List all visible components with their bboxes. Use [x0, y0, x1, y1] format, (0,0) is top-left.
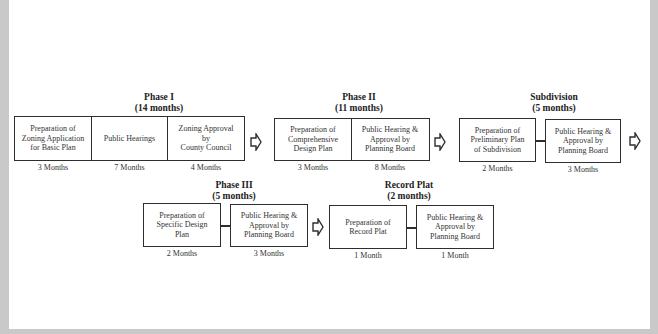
record-plat-step1-duration: 1 Month	[329, 251, 407, 261]
phase1-duration: (14 months)	[104, 103, 214, 114]
phase3-step1-box: Preparation of Specific Design Plan	[143, 203, 221, 247]
phase1-step3-duration: 4 Months	[167, 163, 245, 173]
hollow-right-arrow-icon	[434, 133, 446, 151]
subdivision-step1-box: Preparation of Preliminary Plan of Subdi…	[459, 118, 536, 162]
record-plat-step1-label: Preparation of Record Plat	[345, 218, 391, 237]
subdivision-step1-duration: 2 Months	[459, 164, 536, 174]
phase2-step1-box: Preparation of Comprehensive Design Plan	[274, 118, 352, 161]
subdivision-step2-box: Public Hearing & Approval by Planning Bo…	[545, 119, 621, 163]
record-plat-step1-box: Preparation of Record Plat	[329, 205, 407, 249]
phase3-step1-label: Preparation of Specific Design Plan	[157, 211, 208, 240]
record-plat-step2-label: Public Hearing & Approval by Planning Bo…	[427, 213, 483, 242]
phase2-title-block: Phase II (11 months)	[309, 92, 409, 114]
record-plat-title: Record Plat	[364, 180, 454, 191]
subdivision-step1-label: Preparation of Preliminary Plan of Subdi…	[471, 126, 525, 155]
subdivision-duration: (5 months)	[504, 103, 604, 114]
phase2-step2-duration: 8 Months	[351, 163, 430, 173]
phase3-step1-duration: 2 Months	[143, 249, 221, 259]
phase1-title-block: Phase I (14 months)	[104, 92, 214, 114]
phase1-step2-duration: 7 Months	[91, 163, 169, 173]
phase3-duration: (5 months)	[194, 191, 274, 202]
phase1-step1-label: Preparation of Zoning Application for Ba…	[22, 124, 84, 153]
record-plat-duration: (2 months)	[364, 191, 454, 202]
subdivision-step2-duration: 3 Months	[545, 165, 621, 175]
subdivision-title-block: Subdivision (5 months)	[504, 92, 604, 114]
phase3-step2-box: Public Hearing & Approval by Planning Bo…	[230, 204, 308, 247]
phase3-step2-duration: 3 Months	[230, 249, 308, 259]
hollow-right-arrow-icon	[250, 133, 262, 151]
phase1-step3-box: Zoning Approval by County Council	[167, 116, 245, 161]
phase3-title-block: Phase III (5 months)	[194, 180, 274, 202]
phase1-step1-duration: 3 Months	[14, 163, 92, 173]
record-plat-step2-box: Public Hearing & Approval by Planning Bo…	[416, 205, 494, 249]
subdivision-title: Subdivision	[504, 92, 604, 103]
phase2-step1-duration: 3 Months	[274, 163, 352, 173]
phase1-step1-box: Preparation of Zoning Application for Ba…	[14, 116, 92, 161]
phase1-step2-box: Public Hearings	[91, 116, 169, 161]
hollow-right-arrow-icon	[629, 132, 641, 150]
connector-line	[406, 227, 416, 229]
phase2-title: Phase II	[309, 92, 409, 103]
record-plat-step2-duration: 1 Month	[416, 251, 494, 261]
phase1-step2-label: Public Hearings	[104, 134, 155, 144]
record-plat-title-block: Record Plat (2 months)	[364, 180, 454, 202]
subdivision-step2-label: Public Hearing & Approval by Planning Bo…	[555, 127, 611, 156]
phase2-duration: (11 months)	[309, 103, 409, 114]
phase3-title: Phase III	[194, 180, 274, 191]
phase2-step1-label: Preparation of Comprehensive Design Plan	[288, 125, 338, 154]
phase1-step3-label: Zoning Approval by County Council	[179, 124, 234, 153]
connector-line	[535, 140, 545, 142]
diagram-page: Phase I (14 months) Preparation of Zonin…	[9, 0, 650, 329]
phase3-step2-label: Public Hearing & Approval by Planning Bo…	[241, 211, 297, 240]
phase1-title: Phase I	[104, 92, 214, 103]
hollow-right-arrow-icon	[312, 218, 324, 236]
phase2-step2-label: Public Hearing & Approval by Planning Bo…	[362, 125, 418, 154]
phase2-step2-box: Public Hearing & Approval by Planning Bo…	[351, 118, 430, 161]
